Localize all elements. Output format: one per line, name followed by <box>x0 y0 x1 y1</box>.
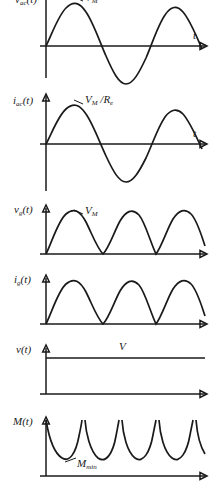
leader-line-iac <box>74 100 83 104</box>
t-axis-label-iac: t <box>193 128 196 139</box>
plot-svg-ig <box>0 266 219 341</box>
annotation-v-level: V <box>119 341 126 352</box>
waveform-vg <box>46 211 205 254</box>
waveform-M-arch-3 <box>122 420 156 460</box>
leader-line-vg <box>74 210 83 214</box>
annotation-Mmin: Mmin <box>77 458 97 469</box>
plot-panel-vac: vac(t) VM t <box>0 0 219 85</box>
plot-svg-v <box>0 336 219 408</box>
axis-label-vg: vg(t) <box>14 204 33 215</box>
annotation-vm-vg: VM <box>85 205 98 216</box>
axis-label-v: v(t) <box>16 344 31 355</box>
annotation-vmre-iac: VM /Re <box>85 94 113 105</box>
leader-line-vac <box>74 0 83 1</box>
axis-label-iac: iac(t) <box>13 95 33 106</box>
waveform-M-arch-1 <box>46 420 82 459</box>
figure-canvas: vac(t) VM t iac(t) VM /Re t <box>0 0 219 493</box>
axis-label-vac: vac(t) <box>15 0 37 5</box>
waveform-M-arch-4 <box>159 420 193 460</box>
axis-label-ig: ig(t) <box>14 274 31 285</box>
plot-panel-M: M(t) Mmin <box>0 408 219 493</box>
plot-panel-v: v(t) V <box>0 336 219 408</box>
plot-svg-vac <box>0 0 219 85</box>
plot-panel-ig: ig(t) <box>0 266 219 341</box>
axis-label-M: M(t) <box>13 416 33 427</box>
waveform-vac <box>46 3 202 84</box>
waveform-ig <box>46 281 205 324</box>
t-axis-label-vac: t <box>193 30 196 41</box>
plot-panel-iac: iac(t) VM /Re t <box>0 88 219 198</box>
annotation-vm-vac: VM <box>85 0 98 3</box>
waveform-M-arch-2 <box>85 420 119 460</box>
waveform-M-arch-5 <box>196 420 205 454</box>
plot-panel-vg: vg(t) VM <box>0 196 219 271</box>
